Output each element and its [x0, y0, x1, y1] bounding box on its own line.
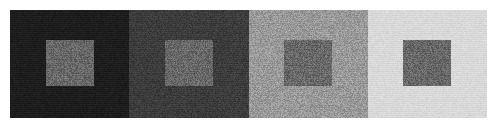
panel-dark: [129, 10, 248, 118]
stimulus-canvas: [0, 0, 497, 128]
gray-patch-2: [165, 40, 213, 86]
panel-darkest: [10, 10, 129, 118]
gray-patch-1: [46, 40, 94, 86]
gray-patch-3: [284, 40, 332, 86]
contrast-panel-strip: [10, 10, 487, 118]
panel-light: [249, 10, 368, 118]
panel-lightest: [368, 10, 487, 118]
gray-patch-4: [403, 40, 451, 86]
